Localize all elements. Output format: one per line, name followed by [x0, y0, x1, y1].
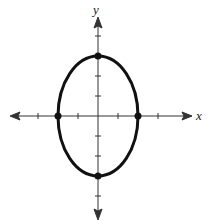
point-vertex-bottom — [95, 173, 102, 180]
x-axis-left-arrow-icon — [10, 112, 20, 120]
x-axis-right-arrow-icon — [182, 112, 192, 120]
y-axis-up-arrow-icon — [94, 17, 102, 28]
ellipse-graph: y x — [0, 0, 208, 224]
y-axis-label: y — [91, 2, 99, 17]
point-intercept-right — [135, 113, 142, 120]
point-vertex-top — [95, 53, 102, 60]
x-axis-label: x — [195, 108, 202, 123]
axes — [10, 17, 192, 220]
point-intercept-left — [55, 113, 62, 120]
y-axis-down-arrow-icon — [94, 209, 102, 220]
